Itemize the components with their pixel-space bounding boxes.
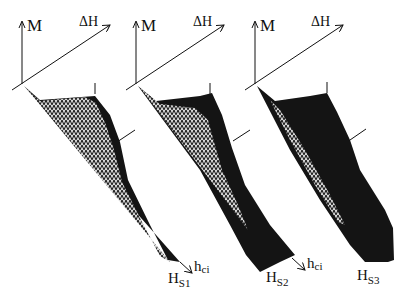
- m-label: M: [141, 16, 156, 35]
- hs2-label: HS2: [266, 269, 288, 288]
- hatched-region: [26, 88, 170, 262]
- hci-arrow-icon: [180, 262, 192, 273]
- m-label: M: [260, 16, 275, 35]
- dh-label: ΔH: [79, 14, 98, 29]
- diagram-canvas: M ΔH hci HS1 M ΔH hci HS2: [0, 0, 410, 293]
- tick: [350, 129, 366, 140]
- dh-label: ΔH: [193, 14, 212, 29]
- hci-label: hci: [194, 258, 209, 275]
- hs3-label: HS3: [357, 267, 380, 286]
- tick: [233, 130, 250, 141]
- hci-arrow-icon: [292, 258, 305, 270]
- m-label: M: [27, 16, 42, 35]
- dh-label: ΔH: [311, 14, 330, 29]
- panel-1: M ΔH hci HS1: [12, 14, 209, 289]
- hs1-label: HS1: [168, 270, 190, 289]
- hci-label: hci: [307, 255, 322, 272]
- tick: [117, 130, 135, 142]
